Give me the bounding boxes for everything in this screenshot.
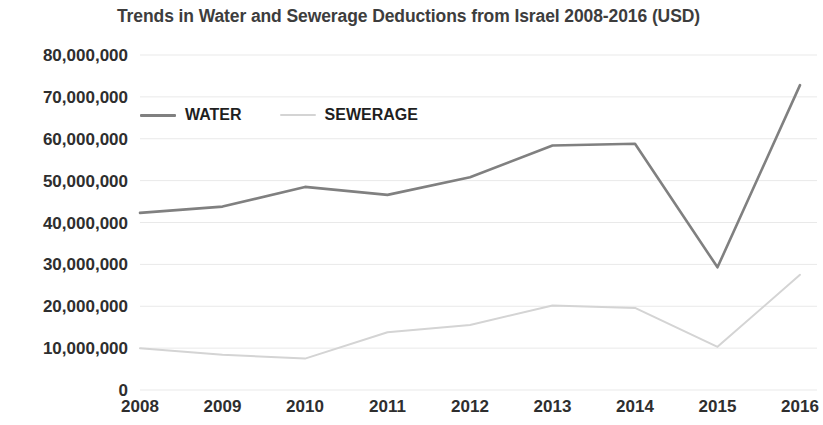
x-axis-tick-label: 2016 [760, 398, 823, 415]
chart-legend: WATER SEWERAGE [140, 107, 418, 123]
legend-label-sewerage: SEWERAGE [325, 107, 418, 123]
x-axis-tick-label: 2013 [513, 398, 593, 415]
legend-item-sewerage[interactable]: SEWERAGE [280, 107, 418, 123]
x-axis-tick-label: 2012 [430, 398, 510, 415]
x-axis-tick-label: 2011 [348, 398, 428, 415]
x-axis-tick-label: 2015 [678, 398, 758, 415]
legend-swatch-water-icon [140, 114, 176, 117]
legend-label-water: WATER [185, 107, 242, 123]
x-axis-tick-label: 2008 [100, 398, 180, 415]
legend-swatch-sewerage-icon [280, 114, 316, 116]
legend-item-water[interactable]: WATER [140, 107, 242, 123]
x-axis-tick-label: 2014 [595, 398, 675, 415]
x-axis-tick-label: 2009 [183, 398, 263, 415]
x-axis-tick-label: 2010 [265, 398, 345, 415]
